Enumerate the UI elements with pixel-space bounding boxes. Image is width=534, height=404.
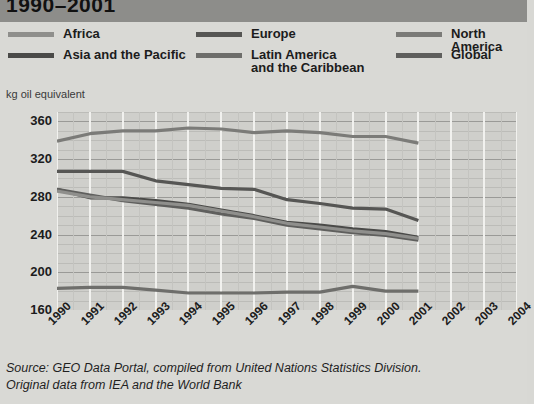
y-axis-tick-320: 320 (30, 151, 52, 166)
series-lines (57, 112, 517, 310)
title-bar-filler (337, 0, 527, 22)
legend-label-global: Global (451, 47, 491, 61)
plot-canvas (57, 112, 517, 310)
y-axis-tick-360: 360 (30, 113, 52, 128)
legend-swatch-europe (196, 32, 242, 37)
y-axis-tick-280: 280 (30, 189, 52, 204)
x-axis-tick-labels: 1990199119921993199419951996199719981999… (0, 316, 527, 356)
legend-label-africa: Africa (63, 26, 100, 40)
source-note: Source: GEO Data Portal, compiled from U… (6, 360, 521, 394)
legend-swatch-asia-and-the-pacific (8, 53, 54, 58)
legend-swatch-africa (8, 32, 54, 37)
legend-swatch-latin-america-and-the-caribbean (196, 53, 242, 58)
legend-item-asia-and-the-pacific: Asia and the Pacific (8, 47, 186, 68)
y-axis-tick-200: 200 (30, 264, 52, 279)
legend-swatch-north-america (396, 32, 442, 37)
legend-item-africa: Africa (8, 26, 186, 47)
line-latin-america-and-the-caribbean (57, 286, 418, 293)
page-title: 1990–2001 (6, 0, 116, 17)
line-africa (57, 191, 418, 238)
legend-swatch-global (396, 53, 442, 58)
y-axis-tick-labels: 160200240280320360 (0, 112, 52, 310)
title-bar: 1990–2001 (0, 0, 337, 22)
legend-column-2: Europe Latin America and the Caribbean (196, 26, 364, 68)
legend: Africa Asia and the Pacific Europe Latin… (0, 26, 527, 88)
plot-area: 160200240280320360 (0, 104, 527, 314)
legend-item-europe: Europe (196, 26, 364, 47)
legend-label-asia-and-the-pacific: Asia and the Pacific (63, 47, 186, 61)
source-line-1: Source: GEO Data Portal, compiled from U… (6, 360, 521, 377)
line-north-america (57, 128, 418, 143)
y-axis-tick-240: 240 (30, 227, 52, 242)
legend-item-north-america: North America (396, 26, 527, 47)
source-line-2: Original data from IEA and the World Ban… (6, 377, 521, 394)
y-axis-caption: kg oil equivalent (6, 88, 85, 100)
legend-label-europe: Europe (251, 26, 296, 40)
legend-label-latin-america-and-the-caribbean: Latin America and the Caribbean (251, 47, 364, 74)
legend-column-1: Africa Asia and the Pacific (8, 26, 186, 68)
legend-item-latin-america-and-the-caribbean: Latin America and the Caribbean (196, 47, 364, 68)
legend-column-3: North America Global (396, 26, 527, 68)
